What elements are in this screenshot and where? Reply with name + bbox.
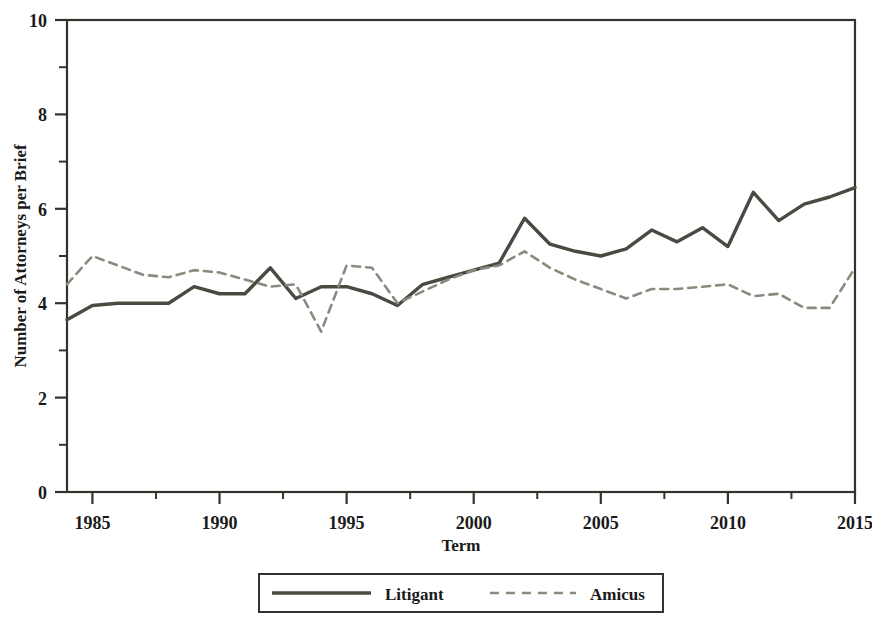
attorneys-per-brief-line-chart: 0246810 1985199019952000200520102015 Num… bbox=[0, 0, 872, 625]
legend-label-litigant: Litigant bbox=[385, 585, 444, 604]
x-tick-label-1995: 1995 bbox=[329, 513, 365, 533]
y-tick-label-10: 10 bbox=[29, 11, 47, 31]
x-tick-label-2015: 2015 bbox=[837, 513, 872, 533]
y-tick-label-0: 0 bbox=[38, 483, 47, 503]
chart-legend: Litigant Amicus bbox=[259, 574, 663, 612]
legend-label-amicus: Amicus bbox=[590, 585, 645, 604]
x-axis-title: Term bbox=[441, 536, 480, 555]
y-tick-label-4: 4 bbox=[38, 294, 47, 314]
x-tick-label-2000: 2000 bbox=[456, 513, 492, 533]
y-tick-label-6: 6 bbox=[38, 200, 47, 220]
y-tick-label-8: 8 bbox=[38, 105, 47, 125]
y-tick-label-2: 2 bbox=[38, 389, 47, 409]
x-tick-label-2005: 2005 bbox=[583, 513, 619, 533]
x-tick-label-1985: 1985 bbox=[74, 513, 110, 533]
y-axis-title: Number of Attorneys per Brief bbox=[11, 144, 30, 368]
x-tick-label-2010: 2010 bbox=[710, 513, 746, 533]
x-tick-label-1990: 1990 bbox=[202, 513, 238, 533]
